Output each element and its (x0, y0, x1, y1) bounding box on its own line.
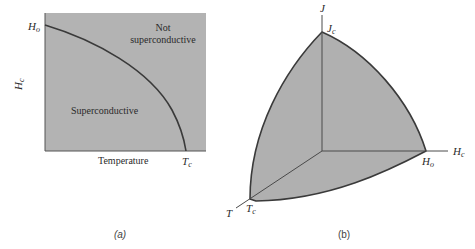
tc-label: Tc (182, 155, 192, 169)
jc-label: Jc (327, 22, 336, 36)
j-axis-label: J (320, 2, 326, 14)
y-axis-label: Hc (12, 78, 26, 91)
not-superconductive-label-line2: superconductive (130, 34, 196, 45)
superconductive-label: Superconductive (71, 105, 139, 116)
caption-b: (b) (338, 229, 350, 240)
figure-canvas: Ho Hc Not superconductive Superconductiv… (0, 0, 475, 249)
panel-b: J Jc Hc Ho T Tc (b) (226, 2, 465, 240)
ho-label: Ho (421, 155, 434, 169)
not-superconductive-label-line1: Not (156, 22, 171, 33)
t-axis-label: T (226, 207, 233, 219)
x-axis-label: Temperature (98, 155, 149, 166)
h0-label: Ho (27, 20, 40, 34)
caption-a: (a) (114, 229, 126, 240)
tc-point-label: Tc (246, 202, 256, 216)
hc-axis-label: Hc (452, 145, 465, 159)
panel-a: Ho Hc Not superconductive Superconductiv… (12, 13, 206, 240)
critical-surface (250, 32, 426, 201)
